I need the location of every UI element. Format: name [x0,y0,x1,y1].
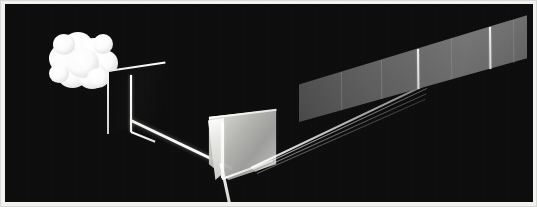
slit-opening [130,75,132,132]
cloud-lobe [49,64,69,83]
spectrum-screen [299,12,527,122]
spectral-line [489,27,491,69]
cloud-lobe [53,34,75,55]
slit-panel-bottom-edge [131,131,156,143]
cloud-lobe [93,34,113,54]
slit-panel-left-edge [107,72,109,134]
render-scene [5,4,533,202]
figure-canvas: Prism dispersion of white light [0,0,537,207]
spectrum-band-shading [299,12,527,122]
glass-prism [204,108,286,180]
spectral-line [417,49,419,89]
